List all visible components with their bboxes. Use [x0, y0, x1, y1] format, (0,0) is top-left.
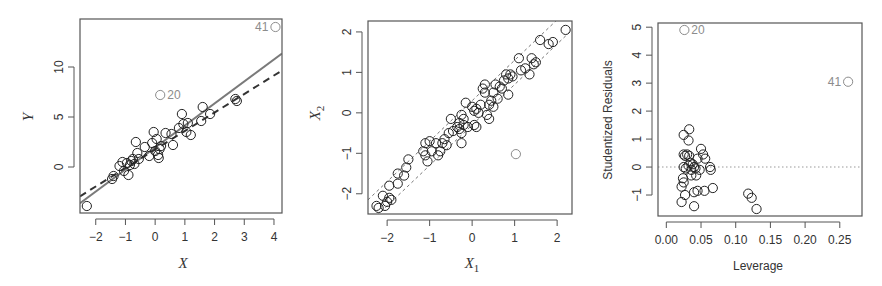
data-point	[168, 140, 177, 149]
y-tick-label: 1	[630, 135, 644, 142]
data-point	[461, 98, 470, 107]
x-axis-title: X1	[464, 255, 480, 274]
predictor-scatter-plot: −2−1012−2−1012X1X2	[300, 0, 590, 286]
plot-area	[80, 22, 282, 210]
middle-scatter-panel: −2−1012−2−1012X1X2	[300, 0, 590, 286]
data-point	[696, 144, 705, 153]
y-tick-label: 0	[52, 163, 66, 170]
plot-frame	[368, 21, 572, 214]
point-label: 20	[691, 23, 705, 37]
data-point	[679, 130, 688, 139]
data-point	[493, 94, 502, 103]
data-point	[752, 204, 761, 213]
data-point	[372, 201, 381, 210]
highlighted-point	[680, 25, 689, 34]
point-label: 41	[255, 20, 269, 34]
y-tick-label: −1	[340, 146, 354, 160]
point-label: 20	[167, 88, 181, 102]
right-leverage-panel: 20410.000.050.100.150.200.25−1012345Leve…	[590, 0, 882, 286]
y-axis-title: Studentized Residuals	[601, 60, 615, 179]
x-tick-label: 0	[152, 230, 159, 244]
data-point	[561, 25, 570, 34]
x-tick-label: −1	[119, 230, 133, 244]
data-point	[457, 139, 466, 148]
fit-without-41-line	[80, 71, 282, 197]
plot-area	[368, 6, 572, 224]
y-tick-label: 0	[340, 109, 354, 116]
y-axis-title: X2	[307, 106, 326, 122]
data-point	[198, 102, 207, 111]
x-axis: −2−101234	[89, 219, 278, 244]
y-tick-label: 2	[630, 107, 644, 114]
data-point	[680, 190, 689, 199]
x-tick-label: 0.20	[793, 233, 817, 247]
data-point	[472, 122, 481, 131]
x-tick-label: 0	[469, 231, 476, 245]
data-point	[700, 186, 709, 195]
highlighted-point	[511, 150, 520, 159]
x-tick-label: 2	[554, 231, 561, 245]
data-point	[708, 183, 717, 192]
data-point	[685, 125, 694, 134]
y-tick-label: 3	[630, 79, 644, 86]
x-axis: 0.000.050.100.150.200.25	[655, 222, 852, 247]
data-point	[385, 181, 394, 190]
x-tick-label: 2	[211, 230, 218, 244]
plot-area	[658, 25, 862, 213]
x-tick-label: 4	[271, 230, 278, 244]
data-point	[684, 136, 693, 145]
data-point	[393, 179, 402, 188]
x-tick-label: −2	[89, 230, 103, 244]
y-tick-label: 5	[52, 113, 66, 120]
data-point	[374, 203, 383, 212]
data-point	[536, 35, 545, 44]
x-tick-label: 0.25	[828, 233, 852, 247]
x-tick-label: 0.15	[759, 233, 783, 247]
data-point	[504, 90, 513, 99]
highlighted-point	[844, 77, 853, 86]
highlighted-point	[156, 90, 165, 99]
x-tick-label: 0.10	[724, 233, 748, 247]
x-tick-label: 0.05	[689, 233, 713, 247]
plot-frame	[658, 23, 862, 216]
x-tick-label: 1	[511, 231, 518, 245]
x-tick-label: 1	[182, 230, 189, 244]
data-point	[529, 60, 538, 69]
y-tick-label: −1	[630, 188, 644, 202]
data-point	[393, 169, 402, 178]
data-point	[404, 155, 413, 164]
y-axis: 0510	[52, 60, 74, 170]
data-point	[446, 114, 455, 123]
x-tick-label: −1	[423, 231, 437, 245]
y-tick-label: 4	[630, 52, 644, 59]
left-regression-panel: 2041−2−1012340510XY	[0, 0, 300, 286]
data-point	[525, 70, 534, 79]
data-point	[197, 116, 206, 125]
data-point	[470, 120, 479, 129]
y-axis: −2−1012	[340, 28, 362, 200]
x-axis: −2−1012	[380, 220, 561, 245]
x-axis-title: X	[177, 255, 188, 271]
point-label: 41	[828, 75, 842, 89]
y-axis: −1012345	[630, 24, 652, 202]
y-tick-label: 1	[340, 69, 354, 76]
y-axis-title: Y	[20, 111, 36, 121]
data-point	[677, 197, 686, 206]
plot-frame	[80, 19, 282, 213]
data-point	[514, 54, 523, 63]
y-tick-label: 2	[340, 28, 354, 35]
x-axis-title: Leverage	[733, 259, 783, 273]
data-point	[82, 201, 91, 210]
y-tick-label: −2	[340, 187, 354, 201]
y-tick-label: 10	[52, 60, 66, 74]
x-tick-label: −2	[380, 231, 394, 245]
y-tick-label: 5	[630, 24, 644, 31]
x-tick-label: 3	[241, 230, 248, 244]
data-point	[378, 191, 387, 200]
data-point	[131, 137, 140, 146]
highlighted-point	[271, 22, 280, 31]
leverage-residual-plot: 20410.000.050.100.150.200.25−1012345Leve…	[590, 0, 882, 286]
data-point	[177, 109, 186, 118]
data-point	[689, 202, 698, 211]
y-tick-label: 0	[630, 163, 644, 170]
